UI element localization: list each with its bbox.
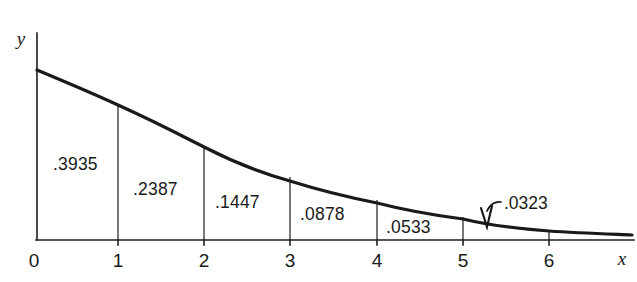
y-axis-label: y [15, 28, 26, 49]
strip-area-label-2: .2387 [133, 179, 178, 199]
x-tick-label-0: 0 [29, 250, 40, 271]
x-tick-label-5: 5 [458, 250, 469, 271]
strip-area-label-5: .0533 [386, 217, 431, 237]
strip-area-label-1: .3935 [53, 154, 98, 174]
x-tick-label-4: 4 [372, 250, 383, 271]
strip-area-label-3: .1447 [215, 192, 260, 212]
x-tick-label-2: 2 [199, 250, 210, 271]
x-tick-label-6: 6 [544, 250, 555, 271]
strip-area-label-6: .0323 [504, 193, 548, 213]
exponential-decay-area-chart: y x 0 1 2 3 4 5 6 .3935 .2387 .1447 .087… [0, 0, 637, 282]
strip-area-label-4: .0878 [300, 204, 345, 224]
x-tick-label-3: 3 [285, 250, 296, 271]
x-tick-label-1: 1 [113, 250, 124, 271]
callout-leader-line [487, 202, 501, 211]
x-axis-label: x [617, 248, 627, 269]
